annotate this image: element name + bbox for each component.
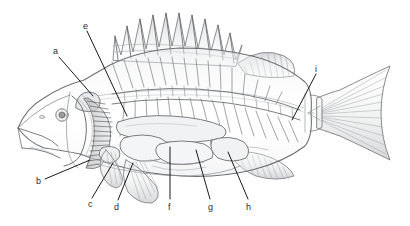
nostril	[39, 115, 44, 118]
label-a: a	[53, 47, 58, 56]
label-c: c	[88, 200, 93, 209]
label-h: h	[246, 203, 251, 212]
label-i: i	[315, 65, 317, 74]
label-g: g	[208, 203, 213, 212]
label-e: e	[83, 22, 88, 31]
label-f: f	[168, 203, 171, 212]
label-d: d	[114, 203, 119, 212]
leader-line-b	[45, 160, 90, 179]
fish-anatomy-diagram: abcdefghi	[0, 0, 410, 226]
label-b: b	[36, 177, 41, 186]
caudal-fin	[305, 66, 390, 160]
fish-illustration	[0, 0, 410, 226]
